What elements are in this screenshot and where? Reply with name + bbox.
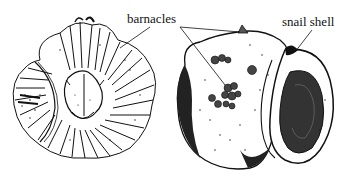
snail-shell-leader [295,30,312,52]
snail-shell-label: snail shell [282,15,334,28]
barnacles-leader-left [120,27,150,48]
barnacles-leader-apex [180,27,240,32]
barnacle-top-view [13,17,155,158]
barnacles-label: barnacles [127,12,176,25]
snail-shell-illustration [177,25,333,169]
